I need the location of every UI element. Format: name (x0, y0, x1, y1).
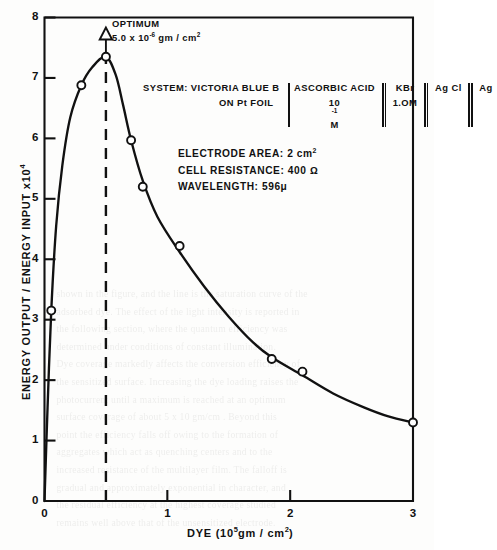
cell-component-3: Ag (475, 82, 496, 93)
cell-component-3-name: Ag (479, 82, 492, 93)
data-point-marker-3 (127, 136, 135, 144)
y-axis-title: ENERGY OUTPUT / ENERGY INPUT x104 (20, 164, 32, 400)
x-axis-ticks (167, 490, 290, 501)
system-description: SYSTEM: VICTORIA BLUE B ON Pt FOIL (143, 82, 288, 108)
y-tick-label-1: 1 (26, 433, 39, 445)
data-point-marker-0 (47, 307, 55, 315)
system-line-1: SYSTEM: VICTORIA BLUE B (143, 82, 279, 93)
y-axis-title-text: ENERGY OUTPUT / ENERGY INPUT x10 (20, 169, 32, 400)
y-tick-label-7: 7 (26, 70, 39, 82)
measurement-parameters: ELECTRODE AREA: 2 cm2 CELL RESISTANCE: 4… (178, 148, 318, 198)
system-line-2: ON Pt FOIL (143, 97, 279, 108)
data-point-marker-2 (102, 53, 110, 61)
optimum-value-prefix: 5.0 x 10 (112, 32, 149, 43)
x-axis-title-units: gm / cm (238, 527, 285, 539)
x-tick-label-2: 2 (282, 507, 298, 519)
param-row-1: CELL RESISTANCE: 400 Ω (178, 165, 318, 176)
y-tick-label-6: 6 (26, 131, 39, 143)
cell-component-0-conc: 10-1 M (294, 97, 375, 130)
param-exponent-0: 2 (313, 147, 317, 154)
optimum-label: OPTIMUM (112, 18, 200, 29)
data-point-marker-1 (77, 81, 85, 89)
param-row-0: ELECTRODE AREA: 2 cm2 (178, 148, 318, 159)
y-axis-title-exponent: 4 (18, 164, 27, 168)
optimum-indicator (100, 28, 112, 502)
cell-component-1-name: KBr (393, 82, 418, 93)
x-axis-title-close: ) (289, 527, 293, 539)
data-point-marker-5 (176, 242, 184, 250)
optimum-callout: OPTIMUM 5.0 x 10-6 gm / cm2 (112, 18, 200, 43)
cell-component-0-name: ASCORBIC ACID (294, 82, 375, 93)
cell-component-2-name: Ag Cl (435, 82, 462, 93)
cell-junction-2 (424, 83, 429, 127)
data-point-marker-4 (139, 183, 147, 191)
param-label-1: CELL RESISTANCE: 400 Ω (178, 165, 318, 176)
system-cell-notation: SYSTEM: VICTORIA BLUE B ON Pt FOIL ASCOR… (143, 82, 497, 130)
cell-junction-3 (468, 83, 473, 127)
cell-component-1: KBr 1.OM (389, 82, 422, 108)
cell-component-1-conc: 1.OM (393, 97, 418, 108)
param-row-2: WAVELENGTH: 596μ (178, 181, 318, 192)
x-axis-title-text: DYE (10 (187, 527, 234, 539)
y-tick-label-0: 0 (26, 494, 39, 506)
data-point-marker-8 (409, 418, 417, 426)
x-tick-label-1: 1 (159, 507, 175, 519)
optimum-value-units: gm / cm (155, 32, 197, 43)
x-tick-label-3: 3 (405, 507, 421, 519)
y-axis-ticks (45, 18, 56, 441)
data-point-marker-7 (298, 368, 306, 376)
x-axis-title: DYE (105gm / cm2) (187, 527, 293, 539)
optimum-value-units-exponent: 2 (197, 30, 201, 37)
y-tick-label-8: 8 (26, 10, 39, 22)
optimum-value: 5.0 x 10-6 gm / cm2 (112, 32, 200, 43)
data-point-marker-6 (268, 355, 276, 363)
param-label-0: ELECTRODE AREA: 2 cm (178, 148, 313, 159)
cell-junction-1 (382, 83, 387, 127)
param-label-2: WAVELENGTH: 596μ (178, 181, 287, 192)
x-tick-label-0: 0 (37, 507, 53, 519)
cell-component-0: ASCORBIC ACID 10-1 M (290, 82, 379, 130)
cell-component-2: Ag Cl (431, 82, 466, 93)
